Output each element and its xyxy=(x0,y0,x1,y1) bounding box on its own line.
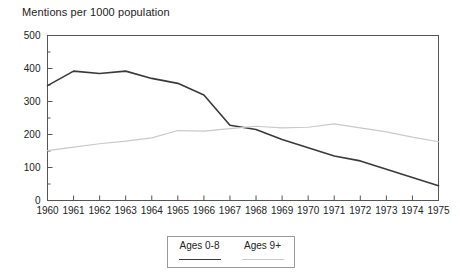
svg-text:1970: 1970 xyxy=(297,205,320,216)
svg-text:100: 100 xyxy=(24,162,41,173)
svg-text:1974: 1974 xyxy=(401,205,424,216)
svg-text:1961: 1961 xyxy=(62,205,85,216)
svg-text:500: 500 xyxy=(24,30,41,41)
svg-text:1968: 1968 xyxy=(245,205,268,216)
svg-text:1975: 1975 xyxy=(427,205,450,216)
svg-text:300: 300 xyxy=(24,96,41,107)
series-lines xyxy=(48,71,439,186)
svg-text:1971: 1971 xyxy=(323,205,346,216)
legend-entry-ages-0-8: Ages 0-8 xyxy=(173,240,227,260)
x-axis-ticks xyxy=(48,196,439,201)
y-axis-tick-labels: 0100200300400500 xyxy=(24,30,41,206)
svg-text:1960: 1960 xyxy=(36,205,59,216)
svg-text:1967: 1967 xyxy=(219,205,242,216)
svg-text:1969: 1969 xyxy=(271,205,294,216)
x-axis-tick-labels: 1960196119621963196419651966196719681969… xyxy=(36,205,450,216)
svg-text:1962: 1962 xyxy=(89,205,112,216)
y-axis-ticks xyxy=(48,36,53,201)
chart-legend: Ages 0-8 Ages 9+ xyxy=(167,236,295,268)
svg-text:200: 200 xyxy=(24,129,41,140)
axis-frame xyxy=(48,36,439,201)
legend-label-ages-9-plus: Ages 9+ xyxy=(244,240,281,252)
svg-text:1972: 1972 xyxy=(349,205,372,216)
svg-text:1966: 1966 xyxy=(193,205,216,216)
legend-swatch-ages-0-8 xyxy=(179,259,221,260)
line-chart-plot: 0100200300400500 19601961196219631964196… xyxy=(0,0,460,272)
svg-text:1973: 1973 xyxy=(375,205,398,216)
svg-text:1964: 1964 xyxy=(141,205,164,216)
svg-text:1963: 1963 xyxy=(115,205,138,216)
chart-figure: Mentions per 1000 population 01002003004… xyxy=(0,0,460,272)
svg-text:1965: 1965 xyxy=(167,205,190,216)
legend-label-ages-0-8: Ages 0-8 xyxy=(179,240,219,252)
legend-swatch-ages-9-plus xyxy=(242,259,284,260)
svg-text:400: 400 xyxy=(24,63,41,74)
legend-entry-ages-9-plus: Ages 9+ xyxy=(236,240,290,260)
